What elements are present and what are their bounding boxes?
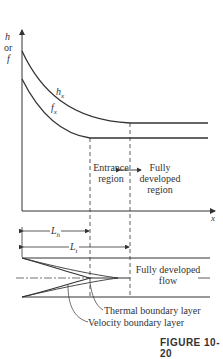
fully-developed-region-label: Fully developed region	[135, 162, 185, 195]
y-axis-label-or: or	[4, 42, 12, 53]
y-axis-label-f: f	[7, 53, 10, 64]
velocity-boundary-layer-label: Velocity boundary layer	[88, 317, 184, 328]
y-axis-label-h: h	[5, 31, 10, 42]
h-x-curve	[22, 51, 208, 123]
lt-label: Lt	[69, 241, 79, 257]
h-x-label: hx	[56, 86, 64, 102]
f-x-label: fx	[51, 102, 57, 118]
fully-developed-flow-label: Fully developed flow	[133, 264, 203, 286]
velocity-leader	[68, 285, 88, 322]
lh-label: Lh	[50, 225, 61, 241]
thermal-boundary-layer-label: Thermal boundary layer	[104, 305, 201, 316]
figure-caption: FIGURE 10-20	[160, 337, 223, 359]
f-x-curve	[22, 79, 208, 138]
velocity-boundary-layer	[22, 258, 90, 297]
entrance-region-label: Entrance region	[91, 162, 131, 184]
x-axis-label: x	[211, 213, 215, 224]
